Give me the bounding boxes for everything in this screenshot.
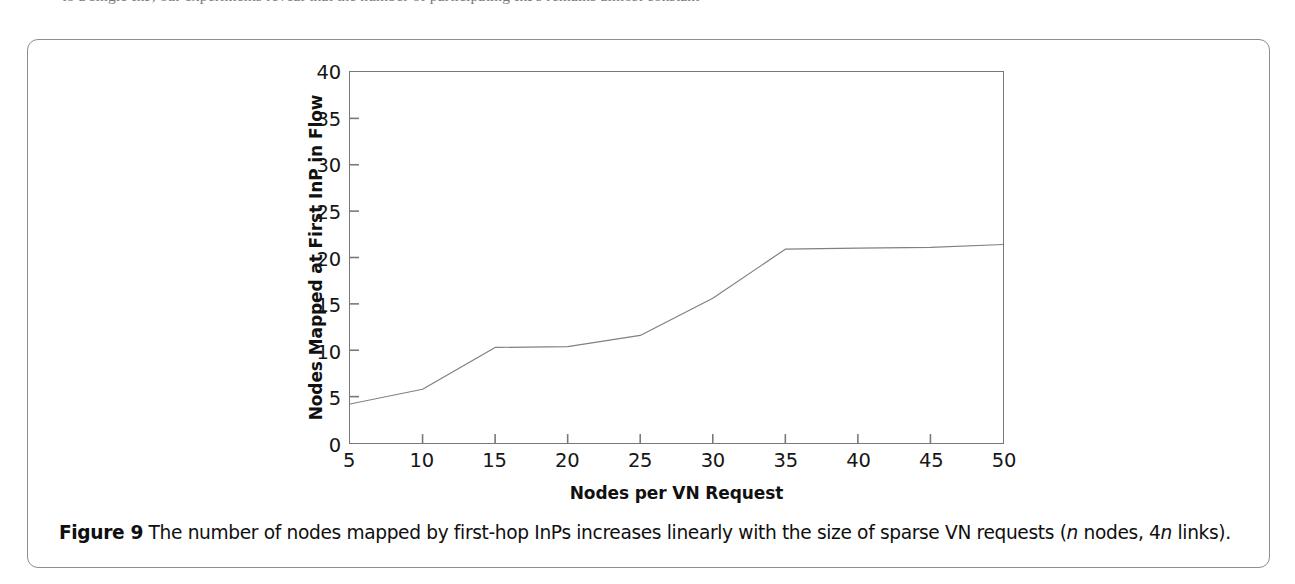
x-tick-label: 50 [992, 449, 1016, 472]
y-axis-title: Nodes Mapped at First InP in Flow [304, 71, 328, 444]
x-tick-label: 10 [410, 449, 434, 472]
x-tick-label: 20 [555, 449, 579, 472]
x-tick-label: 5 [343, 449, 355, 472]
x-tick-label: 25 [628, 449, 652, 472]
figure-caption-label: Figure 9 [59, 522, 143, 543]
plot-svg [350, 72, 1003, 443]
x-tick-marks [423, 434, 931, 443]
x-tick-labels: 5101520253035404550 [349, 449, 1004, 475]
figure-caption: Figure 9 The number of nodes mapped by f… [59, 521, 1244, 544]
chart-area: Nodes Mapped at First InP in Flow 051015… [28, 40, 1271, 500]
x-axis-title: Nodes per VN Request [349, 483, 1004, 503]
x-tick-label: 45 [919, 449, 943, 472]
data-series-line [350, 245, 1003, 405]
x-tick-label: 15 [482, 449, 506, 472]
page-top-cut-text: to a single InP, our experiments reveal … [0, 0, 1295, 14]
plot-box: 0510152025303540 [349, 71, 1004, 444]
figure-frame: Nodes Mapped at First InP in Flow 051015… [27, 39, 1270, 568]
figure-caption-italic-n2: n [1161, 522, 1172, 543]
x-tick-label: 30 [701, 449, 725, 472]
figure-caption-part2: nodes, 4 [1078, 522, 1161, 543]
x-tick-label: 35 [773, 449, 797, 472]
figure-caption-part1: The number of nodes mapped by first-hop … [149, 522, 1067, 543]
x-tick-label: 40 [846, 449, 870, 472]
y-tick-label: 5 [329, 387, 341, 410]
figure-caption-part3: links). [1172, 522, 1231, 543]
y-tick-marks [350, 118, 359, 396]
page-top-cut-text-line: to a single InP, our experiments reveal … [62, 0, 1242, 5]
y-tick-label: 0 [329, 434, 341, 457]
figure-caption-italic-n1: n [1067, 522, 1078, 543]
